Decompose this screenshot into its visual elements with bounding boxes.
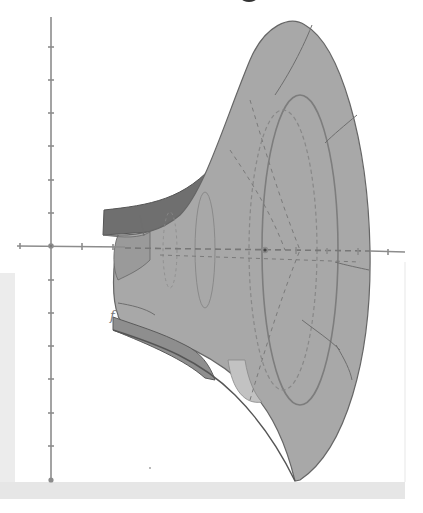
surface-front	[114, 21, 371, 481]
function-label: f	[110, 308, 115, 323]
surface-plot	[0, 0, 423, 513]
vertical-axis	[48, 17, 54, 482]
stray-dot	[149, 467, 151, 469]
